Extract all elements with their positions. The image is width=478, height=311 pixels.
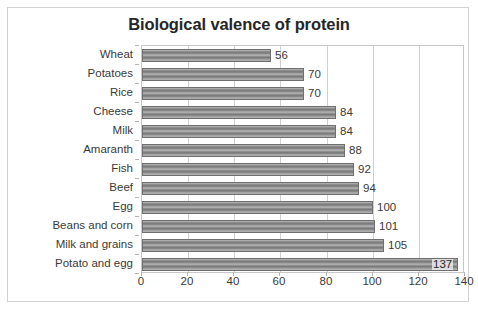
category-label-wheat: Wheat [100, 49, 133, 61]
value-tick-label-20: 20 [181, 276, 194, 288]
category-label-fish: Fish [111, 163, 133, 175]
bar-series: 5670708484889294100101105137 [142, 46, 463, 272]
bar-amaranth[interactable] [142, 144, 345, 157]
category-tick [135, 159, 139, 160]
bar-row[interactable]: 137 [142, 255, 463, 274]
bar-wheat[interactable] [142, 49, 271, 62]
bar-row[interactable]: 56 [142, 46, 463, 65]
category-label-milk-and-grains: Milk and grains [56, 239, 133, 251]
bar-value-label: 105 [388, 240, 407, 252]
category-label-beans-and-corn: Beans and corn [52, 220, 133, 232]
bar-potatoes[interactable] [142, 68, 304, 81]
category-tick [135, 121, 139, 122]
category-label-egg: Egg [113, 201, 133, 213]
value-tick-label-80: 80 [320, 276, 333, 288]
bar-row[interactable]: 84 [142, 103, 463, 122]
bar-fish[interactable] [142, 163, 354, 176]
bar-beef[interactable] [142, 182, 359, 195]
bar-row[interactable]: 70 [142, 84, 463, 103]
bar-value-label: 88 [349, 145, 362, 157]
category-tick [135, 64, 139, 65]
value-tick-label-60: 60 [273, 276, 286, 288]
value-tick-label-40: 40 [227, 276, 240, 288]
bar-value-label: 137 [432, 259, 453, 271]
bar-value-label: 70 [308, 69, 321, 81]
bar-value-label: 56 [275, 50, 288, 62]
bar-value-label: 84 [340, 126, 353, 138]
category-tick [135, 216, 139, 217]
value-tick-label-140: 140 [454, 276, 473, 288]
bar-row[interactable]: 88 [142, 141, 463, 160]
category-tick [135, 235, 139, 236]
bar-value-label: 70 [308, 88, 321, 100]
bar-value-label: 92 [358, 164, 371, 176]
bar-milk[interactable] [142, 125, 336, 138]
category-tick [135, 45, 139, 46]
bar-egg[interactable] [142, 201, 373, 214]
category-label-potatoes: Potatoes [88, 68, 133, 80]
bar-value-label: 101 [379, 221, 398, 233]
value-tick-label-100: 100 [362, 276, 381, 288]
value-tick-label-120: 120 [408, 276, 427, 288]
plot-area: 5670708484889294100101105137 [141, 45, 464, 273]
bar-row[interactable]: 100 [142, 198, 463, 217]
category-label-potato-and-egg: Potato and egg [55, 258, 133, 270]
category-label-beef: Beef [109, 182, 133, 194]
bar-row[interactable]: 94 [142, 179, 463, 198]
category-label-cheese: Cheese [93, 106, 133, 118]
bar-potato-and-egg[interactable] [142, 258, 458, 271]
bar-cheese[interactable] [142, 106, 336, 119]
category-tick [135, 178, 139, 179]
bar-row[interactable]: 70 [142, 65, 463, 84]
category-axis: WheatPotatoesRiceCheeseMilkAmaranthFishB… [15, 45, 139, 273]
category-tick [135, 102, 139, 103]
category-tick [135, 197, 139, 198]
bar-row[interactable]: 101 [142, 217, 463, 236]
bar-row[interactable]: 92 [142, 160, 463, 179]
chart-frame: Biological valence of protein WheatPotat… [7, 7, 469, 302]
bar-milk-and-grains[interactable] [142, 239, 384, 252]
category-label-rice: Rice [110, 87, 133, 99]
bar-value-label: 94 [363, 183, 376, 195]
value-axis: 020406080100120140 [141, 276, 464, 294]
bar-beans-and-corn[interactable] [142, 220, 375, 233]
category-label-milk: Milk [113, 125, 133, 137]
category-label-amaranth: Amaranth [83, 144, 133, 156]
bar-value-label: 100 [377, 202, 396, 214]
category-tick [135, 273, 139, 274]
category-tick [135, 254, 139, 255]
value-tick-label-0: 0 [138, 276, 144, 288]
bar-rice[interactable] [142, 87, 304, 100]
chart-title: Biological valence of protein [8, 15, 470, 34]
category-tick [135, 83, 139, 84]
bar-row[interactable]: 105 [142, 236, 463, 255]
bar-value-label: 84 [340, 107, 353, 119]
bar-row[interactable]: 84 [142, 122, 463, 141]
category-tick [135, 140, 139, 141]
